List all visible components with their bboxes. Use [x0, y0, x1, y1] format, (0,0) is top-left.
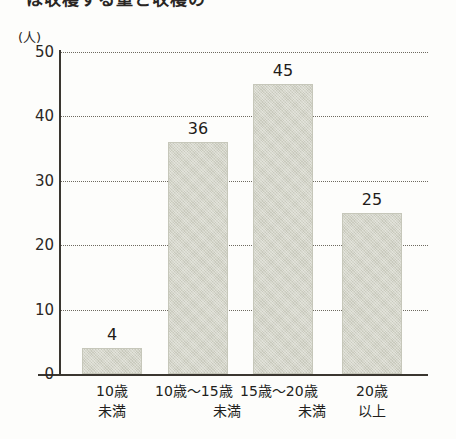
- bar-series: 4364525: [60, 52, 428, 374]
- y-tick-label-10: 10: [14, 301, 54, 319]
- cropped-heading-strip: は収穫する量と収穫の: [0, 0, 456, 16]
- bar-3[interactable]: [342, 213, 402, 374]
- x-category-label-3: 20歳以上: [356, 381, 388, 422]
- bar-value-label-3: 25: [362, 190, 382, 209]
- x-category-label-0: 10歳未満: [96, 381, 128, 422]
- x-category-label-1: 10歳～15歳未満: [155, 381, 241, 422]
- bar-value-label-2: 45: [273, 61, 293, 80]
- y-tick-label-20: 20: [14, 236, 54, 254]
- bar-1[interactable]: [168, 142, 228, 374]
- y-axis-tick-labels: 01020304050: [12, 52, 54, 374]
- x-axis-category-labels: 10歳未満10歳～15歳未満15歳～20歳未満20歳以上: [60, 381, 428, 435]
- bar-value-label-1: 36: [188, 119, 208, 138]
- x-category-label-1-line2: 未満: [155, 401, 241, 421]
- cropped-heading-text: は収穫する量と収穫の: [26, 0, 206, 10]
- bar-value-label-0: 4: [107, 325, 117, 344]
- y-tick-label-40: 40: [14, 107, 54, 125]
- x-category-label-0-line1: 10歳: [96, 381, 128, 401]
- x-category-label-2: 15歳～20歳未満: [240, 381, 326, 422]
- y-tick-label-30: 30: [14, 172, 54, 190]
- x-category-label-3-line1: 20歳: [356, 381, 388, 401]
- x-category-label-2-line2: 未満: [240, 401, 326, 421]
- x-category-label-2-line1: 15歳～20歳: [240, 381, 326, 401]
- y-tick-label-50: 50: [14, 43, 54, 61]
- x-axis-line: [38, 374, 428, 376]
- bar-2[interactable]: [253, 84, 313, 374]
- y-tick-label-0: 0: [14, 365, 54, 383]
- x-category-label-3-line2: 以上: [356, 401, 388, 421]
- bar-0[interactable]: [82, 348, 142, 374]
- x-category-label-1-line1: 10歳～15歳: [155, 381, 241, 401]
- x-category-label-0-line2: 未満: [96, 401, 128, 421]
